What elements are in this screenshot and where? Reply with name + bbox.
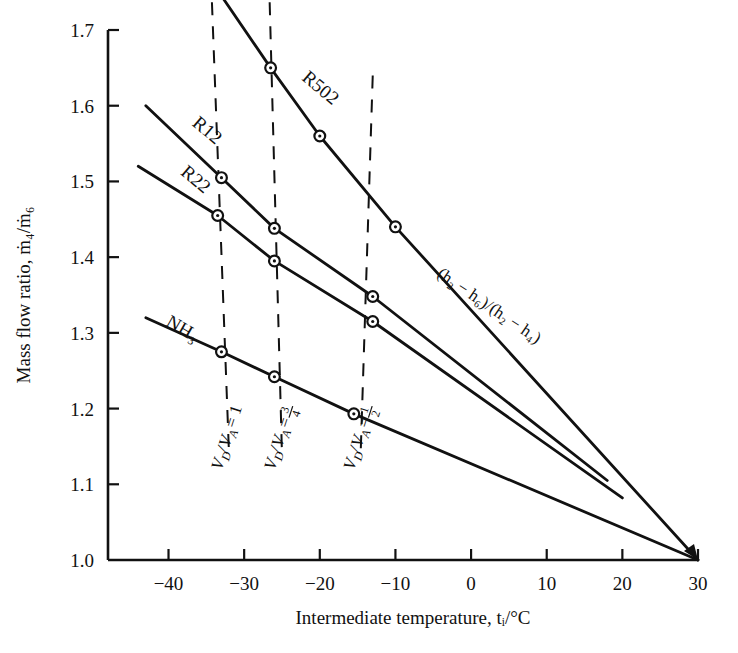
y-tick-label: 1.3 — [70, 323, 94, 344]
vdva-label-part: = — [221, 415, 242, 430]
y-tick-label: 1.7 — [70, 20, 94, 41]
x-tick-label: −10 — [381, 573, 411, 594]
series-label-r12: R12 — [189, 112, 227, 148]
data-point-center — [273, 227, 276, 230]
data-point-center — [352, 412, 355, 415]
dashed-vdva-line — [210, 0, 229, 454]
vdva-fraction-denominator: 2 — [368, 409, 383, 419]
data-point-center — [371, 320, 374, 323]
data-point-center — [220, 350, 223, 353]
enthalpy-ratio-annotation: (h₂ − h₆)/(h₂ − h₄) — [434, 264, 545, 348]
data-point-center — [216, 214, 219, 217]
vdva-fraction-denominator: 4 — [289, 409, 304, 419]
x-tick-label: −30 — [229, 573, 259, 594]
data-point-center — [269, 66, 272, 69]
dashed-vdva-line — [361, 75, 373, 454]
y-tick-label: 1.6 — [70, 96, 94, 117]
x-tick-label: 20 — [613, 573, 632, 594]
data-point-center — [371, 295, 374, 298]
x-tick-label: 30 — [689, 573, 708, 594]
chart-canvas: 1.01.11.21.31.41.51.61.7−40−30−20−100102… — [0, 0, 738, 653]
x-axis-title: Intermediate temperature, tᵢ/°C — [296, 607, 531, 628]
x-tick-label: −20 — [305, 573, 335, 594]
y-tick-label: 1.4 — [70, 247, 94, 268]
data-point-center — [394, 225, 397, 228]
x-tick-label: 0 — [466, 573, 476, 594]
y-tick-label: 1.5 — [70, 171, 94, 192]
figure-container: 1.01.11.21.31.41.51.61.7−40−30−20−100102… — [0, 0, 738, 653]
series-label-r502: R502 — [298, 66, 343, 109]
x-tick-label: −40 — [154, 573, 184, 594]
x-tick-label: 10 — [537, 573, 556, 594]
data-point-center — [273, 375, 276, 378]
y-axis-title: Mass flow ratio, ṁ₄/ṁ₆ — [13, 207, 34, 384]
y-tick-label: 1.1 — [70, 474, 94, 495]
vdva-label-part: = — [274, 415, 295, 430]
vdva-label: VD/VA=1vdva-fraction-bar2 — [339, 402, 384, 474]
data-point-center — [318, 134, 321, 137]
vdva-label: VD/VA=3vdva-fraction-bar4 — [259, 402, 304, 474]
data-point-center — [273, 259, 276, 262]
data-point-center — [220, 176, 223, 179]
y-tick-label: 1.0 — [70, 550, 94, 571]
y-tick-label: 1.2 — [70, 399, 94, 420]
series-line-r22 — [138, 166, 622, 498]
